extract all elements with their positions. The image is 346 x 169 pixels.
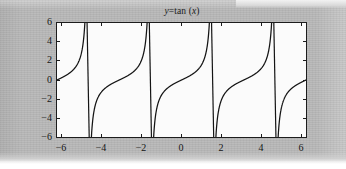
y-tick-minus-2 [56, 99, 60, 100]
x-ticklabel-minus-6: −6 [49, 142, 73, 153]
tan-curve-svg [57, 23, 306, 137]
x-tick-minus-2 [141, 134, 142, 138]
x-ticklabel-4: 4 [249, 142, 273, 153]
y-ticklabel-minus-4: −4 [30, 112, 52, 123]
x-tick-6 [301, 134, 302, 138]
tan-branch [213, 23, 275, 137]
x-tick-top-minus-4 [101, 22, 102, 26]
x-tick-top-minus-6 [61, 22, 62, 26]
y-ticklabel-minus-2: −2 [30, 93, 52, 104]
x-tick-top-6 [301, 22, 302, 26]
y-tick-right-minus-6 [303, 137, 307, 138]
chart-title-eq-tan: =tan ( [169, 6, 192, 16]
asymptote-line-0 [87, 23, 89, 137]
y-tick-right-minus-2 [303, 99, 307, 100]
y-tick-6 [56, 22, 60, 23]
tan-curve-branches [57, 23, 306, 137]
y-tick-right-minus-4 [303, 118, 307, 119]
figure: y=tan (x) [0, 0, 346, 169]
x-tick-0 [181, 134, 182, 138]
x-tick-top-4 [261, 22, 262, 26]
y-tick-minus-6 [56, 137, 60, 138]
y-tick-right-4 [303, 41, 307, 42]
x-ticklabel-minus-2: −2 [129, 142, 153, 153]
y-tick-minus-4 [56, 118, 60, 119]
y-tick-2 [56, 60, 60, 61]
y-tick-4 [56, 41, 60, 42]
scanned-figure-page: y=tan (x) [0, 0, 346, 169]
tan-branch [88, 23, 150, 137]
y-ticklabel-2: 2 [30, 54, 52, 65]
x-tick-2 [221, 134, 222, 138]
y-ticklabel-4: 4 [30, 35, 52, 46]
tan-branch [57, 23, 88, 80]
asymptote-line-3 [274, 23, 276, 137]
x-ticklabel-minus-4: −4 [89, 142, 113, 153]
x-tick-4 [261, 134, 262, 138]
y-tick-right-6 [303, 22, 307, 23]
x-ticklabel-2: 2 [209, 142, 233, 153]
y-tick-right-2 [303, 60, 307, 61]
x-ticklabel-0: 0 [169, 142, 193, 153]
x-tick-top-minus-2 [141, 22, 142, 26]
x-tick-top-2 [221, 22, 222, 26]
y-ticklabel-minus-6: −6 [30, 131, 52, 142]
y-ticklabel-0: 0 [30, 74, 52, 85]
plot-area [56, 22, 307, 138]
x-tick-top-0 [181, 22, 182, 26]
chart-title: y=tan (x) [56, 6, 308, 16]
tan-branch [275, 80, 306, 137]
asymptote-line-2 [212, 23, 214, 137]
x-ticklabel-6: 6 [289, 142, 313, 153]
y-tick-0 [56, 80, 60, 81]
y-tick-right-0 [303, 80, 307, 81]
chart-title-close-paren: ) [196, 6, 199, 16]
asymptote-line-1 [149, 23, 151, 137]
x-tick-minus-6 [61, 134, 62, 138]
x-tick-minus-4 [101, 134, 102, 138]
y-ticklabel-6: 6 [30, 16, 52, 27]
tan-branch [150, 23, 212, 137]
